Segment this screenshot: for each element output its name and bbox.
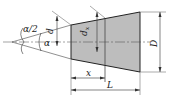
- d-extension-top: [52, 11, 71, 25]
- arrow-right-icon: [135, 89, 140, 92]
- D-label: D: [149, 40, 159, 48]
- taper-diagram: d dx D x L α/2 α: [0, 0, 177, 106]
- arrow-left-icon: [71, 77, 76, 80]
- arrow-left-icon: [71, 89, 76, 92]
- arrow-right-icon: [100, 77, 105, 80]
- arrow-down-icon: [159, 67, 162, 72]
- cone-extension-bottom: [12, 42, 71, 59]
- half-angle-arc-lower: [21, 42, 24, 54]
- x-label: x: [86, 68, 91, 78]
- arrow-down-icon: [56, 41, 59, 46]
- arrow-up-icon: [56, 16, 59, 21]
- d-label: d: [45, 28, 55, 34]
- L-label: L: [106, 80, 113, 90]
- arrow-up-icon: [159, 12, 162, 17]
- angle-label: α: [44, 38, 50, 48]
- half-angle-label: α/2: [23, 24, 38, 34]
